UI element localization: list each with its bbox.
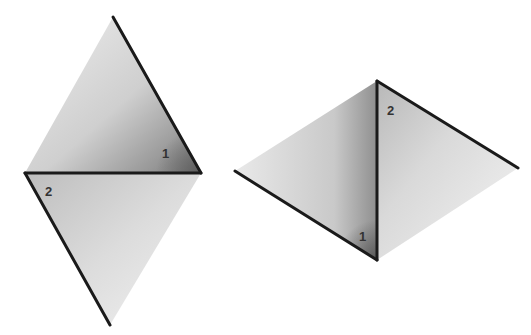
right-left-corner-shade <box>235 81 377 260</box>
angle-label-2: 2 <box>45 184 52 199</box>
right-right-triangle <box>377 81 518 260</box>
right-rhombus: 2 1 <box>235 81 518 260</box>
angle-label-1: 1 <box>359 229 366 244</box>
angle-label-2: 2 <box>387 103 394 118</box>
angle-label-1: 1 <box>162 146 169 161</box>
diagram-canvas: 1 2 2 1 <box>0 0 531 335</box>
left-upper-corner-shade <box>25 17 201 173</box>
left-rhombus: 1 2 <box>25 17 201 325</box>
